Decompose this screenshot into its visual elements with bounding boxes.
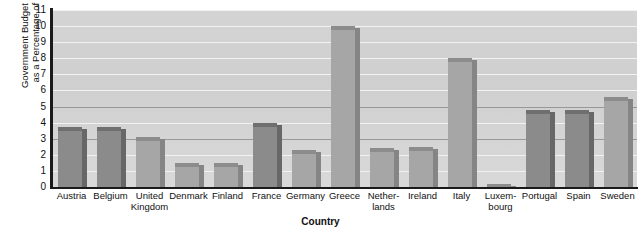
- bar-face: [565, 114, 589, 187]
- bar-face: [136, 141, 160, 187]
- bar-side: [550, 112, 555, 187]
- bar-face: [370, 152, 394, 187]
- y-tick-label: 0: [20, 182, 46, 192]
- bar-face: [175, 167, 199, 187]
- y-tick-label: 4: [20, 118, 46, 128]
- y-axis-ticks: 11109876543210: [14, 0, 46, 235]
- bar-face: [604, 101, 628, 187]
- bar-chart: Government Budget Deficit as a Percentag…: [0, 0, 641, 235]
- bar-side: [472, 60, 477, 187]
- bar-top: [448, 58, 472, 62]
- bar-side: [628, 99, 633, 187]
- bar: [331, 26, 355, 187]
- bar-side: [82, 129, 87, 187]
- bar: [136, 137, 160, 187]
- bar-top: [565, 110, 589, 114]
- bar-face: [214, 167, 238, 187]
- x-axis-line: [50, 187, 638, 189]
- bar-side: [277, 125, 282, 187]
- bar-face: [97, 131, 121, 187]
- bar-side: [394, 150, 399, 187]
- bar-face: [331, 30, 355, 187]
- bar: [409, 147, 433, 187]
- y-tick-label: 1: [20, 166, 46, 176]
- bar-top: [604, 97, 628, 101]
- plot-area: [52, 10, 637, 187]
- bar: [253, 123, 277, 187]
- bar: [370, 148, 394, 187]
- bar-side: [121, 129, 126, 187]
- bar-side: [316, 152, 321, 187]
- y-tick-label: 11: [20, 5, 46, 15]
- bar: [526, 110, 550, 187]
- y-axis-line: [50, 8, 53, 189]
- bar: [604, 97, 628, 187]
- bar-top: [58, 127, 82, 131]
- bar-face: [292, 154, 316, 187]
- bar-side: [433, 149, 438, 187]
- bar: [448, 58, 472, 187]
- bar-top: [331, 26, 355, 30]
- y-tick-label: 3: [20, 134, 46, 144]
- bar-side: [199, 165, 204, 187]
- y-tick-label: 6: [20, 85, 46, 95]
- bar-top: [175, 163, 199, 167]
- gridline: [52, 10, 637, 11]
- x-axis-title: Country: [0, 216, 641, 227]
- bar-side: [355, 28, 360, 187]
- x-tick-label: Sweden: [594, 190, 641, 201]
- y-tick-label: 10: [20, 21, 46, 31]
- bar-top: [526, 110, 550, 114]
- bar: [292, 150, 316, 187]
- bar-top: [214, 163, 238, 167]
- bar: [175, 163, 199, 187]
- bar-top: [136, 137, 160, 141]
- y-tick-label: 2: [20, 150, 46, 160]
- bar-side: [238, 165, 243, 187]
- bar-face: [58, 131, 82, 187]
- bar-top: [253, 123, 277, 127]
- y-tick-label: 7: [20, 69, 46, 79]
- bar-side: [160, 139, 165, 187]
- bar-face: [526, 114, 550, 187]
- y-tick-label: 8: [20, 53, 46, 63]
- bar: [565, 110, 589, 187]
- bar-side: [589, 112, 594, 187]
- bar-face: [409, 151, 433, 187]
- bar-face: [253, 127, 277, 187]
- y-tick-label: 9: [20, 37, 46, 47]
- bar-top: [370, 148, 394, 152]
- y-tick-label: 5: [20, 102, 46, 112]
- bar: [58, 127, 82, 187]
- bar-top: [97, 127, 121, 131]
- bar-face: [448, 62, 472, 187]
- x-axis-ticks: AustriaBelgiumUnitedKingdomDenmarkFinlan…: [52, 190, 637, 218]
- bar-top: [409, 147, 433, 151]
- bar: [97, 127, 121, 187]
- bar: [214, 163, 238, 187]
- bar-top: [292, 150, 316, 154]
